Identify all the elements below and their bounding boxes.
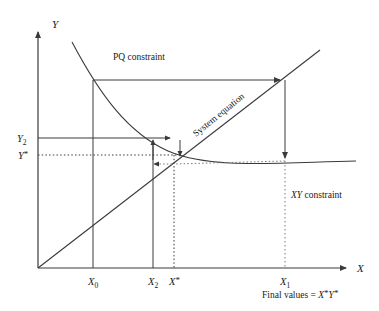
x-tick-label-x2: X2 xyxy=(147,276,158,290)
y-axis-label: Y xyxy=(52,18,60,30)
xy-constraint-label: XY constraint xyxy=(290,190,342,200)
x-axis-label: X xyxy=(356,262,365,274)
diagram-canvas: Y X X0 X2 X* X1 Y2 Y* PQ constraint Syst… xyxy=(0,0,379,311)
x-tick-label-x0: X0 xyxy=(87,276,98,290)
y-tick-label-ystar: Y* xyxy=(18,149,29,161)
x-tick-label-xstar: X* xyxy=(168,275,180,287)
pq-constraint-label: PQ constraint xyxy=(113,52,165,62)
system-equation-line xyxy=(38,50,320,268)
y-tick-label-y2: Y2 xyxy=(17,133,27,147)
iteration-diagram: Y X X0 X2 X* X1 Y2 Y* PQ constraint Syst… xyxy=(0,0,379,311)
final-values-caption: Final values = X*Y* xyxy=(262,288,339,300)
x-tick-label-x1: X1 xyxy=(279,276,290,290)
system-equation-label: System equation xyxy=(191,91,246,139)
